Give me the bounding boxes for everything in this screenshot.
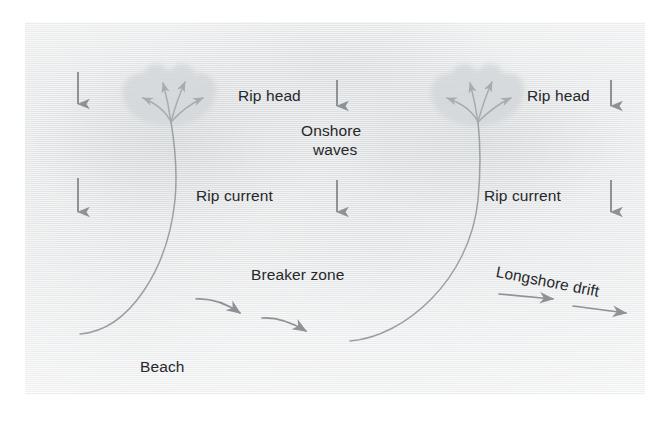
label-onshore-waves-line2: waves bbox=[313, 140, 357, 159]
paper-scan-texture bbox=[25, 22, 645, 395]
label-rip-current-right: Rip current bbox=[484, 186, 561, 205]
label-rip-head-right: Rip head bbox=[527, 86, 590, 105]
diagram-plate bbox=[25, 22, 645, 395]
label-breaker-zone: Breaker zone bbox=[251, 265, 344, 284]
water-shading bbox=[25, 22, 645, 395]
label-onshore-waves-line1: Onshore bbox=[301, 121, 361, 140]
figure-canvas: Rip head Rip head Onshore waves Rip curr… bbox=[0, 0, 667, 422]
label-rip-head-left: Rip head bbox=[238, 86, 301, 105]
label-rip-current-left: Rip current bbox=[196, 186, 273, 205]
label-beach: Beach bbox=[140, 357, 184, 376]
